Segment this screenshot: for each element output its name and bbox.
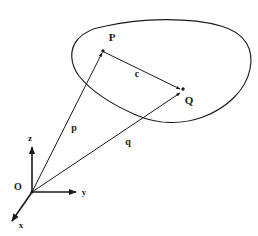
vector-diagram-figure: P Q c p q O z y x — [0, 0, 258, 236]
point-Q-dot — [181, 87, 184, 90]
vector-q-line — [32, 93, 180, 192]
vector-p-label: p — [71, 122, 77, 133]
vector-q-label: q — [125, 136, 131, 147]
origin-dot — [31, 191, 34, 194]
axis-x-line — [12, 192, 32, 221]
origin-label: O — [14, 181, 22, 192]
axis-x-label: x — [19, 220, 24, 230]
point-Q-label: Q — [185, 94, 194, 106]
body-region-outline — [72, 20, 251, 123]
vector-diagram-canvas: P Q c p q O z y x — [0, 0, 258, 236]
axis-z-label: z — [28, 133, 32, 143]
vector-c-line — [104, 52, 180, 89]
point-P-label: P — [109, 31, 116, 43]
axis-y-label: y — [82, 187, 87, 197]
vector-p-line — [32, 53, 102, 192]
vector-c-label: c — [135, 68, 140, 79]
point-P-dot — [101, 49, 104, 52]
